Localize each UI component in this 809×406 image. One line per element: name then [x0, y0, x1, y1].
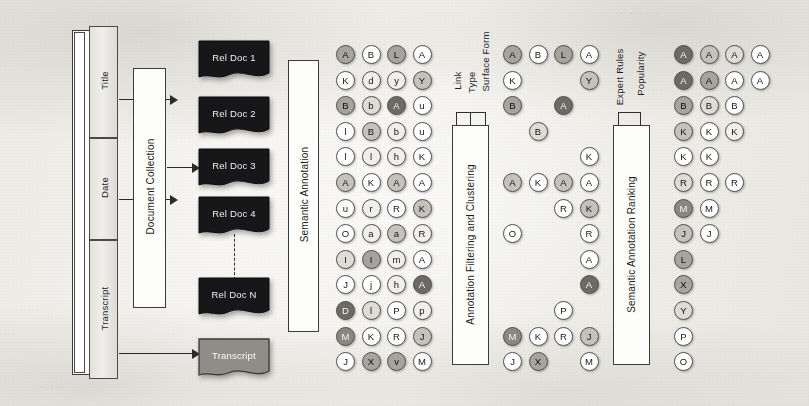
- annotation-token[interactable]: P: [554, 301, 573, 320]
- annotation-token[interactable]: A: [580, 250, 599, 269]
- annotation-token[interactable]: R: [387, 327, 406, 346]
- annotation-token[interactable]: B: [674, 96, 693, 115]
- transcript-document[interactable]: Transcript: [198, 338, 270, 380]
- annotation-token[interactable]: h: [387, 147, 406, 166]
- annotation-token[interactable]: A: [751, 71, 770, 90]
- annotation-token[interactable]: J: [336, 275, 355, 294]
- annotation-token[interactable]: l: [362, 301, 381, 320]
- annotation-token[interactable]: J: [503, 352, 522, 371]
- annotation-token[interactable]: J: [413, 327, 432, 346]
- annotation-token[interactable]: A: [751, 45, 770, 64]
- annotation-token[interactable]: A: [725, 45, 744, 64]
- list-item[interactable]: Rel Doc 4: [198, 196, 270, 238]
- annotation-token[interactable]: K: [700, 147, 719, 166]
- annotation-token[interactable]: B: [529, 122, 548, 141]
- annotation-token[interactable]: K: [503, 71, 522, 90]
- annotation-token[interactable]: A: [503, 173, 522, 192]
- annotation-token[interactable]: A: [336, 45, 355, 64]
- annotation-token[interactable]: P: [387, 301, 406, 320]
- annotation-token[interactable]: K: [362, 173, 381, 192]
- list-item[interactable]: Rel Doc 2: [198, 96, 270, 138]
- annotation-token[interactable]: R: [387, 199, 406, 218]
- annotation-token[interactable]: p: [413, 301, 432, 320]
- annotation-token[interactable]: Y: [674, 301, 693, 320]
- annotation-token[interactable]: Y: [580, 71, 599, 90]
- annotation-token[interactable]: K: [674, 122, 693, 141]
- annotation-token[interactable]: y: [387, 71, 406, 90]
- annotation-token[interactable]: K: [336, 71, 355, 90]
- annotation-token[interactable]: R: [554, 199, 573, 218]
- annotation-token[interactable]: M: [336, 327, 355, 346]
- annotation-token[interactable]: A: [674, 45, 693, 64]
- annotation-token[interactable]: J: [580, 327, 599, 346]
- annotation-token[interactable]: B: [700, 96, 719, 115]
- annotation-token[interactable]: K: [362, 327, 381, 346]
- annotation-token[interactable]: l: [336, 122, 355, 141]
- annotation-token[interactable]: a: [362, 224, 381, 243]
- annotation-token[interactable]: I: [336, 250, 355, 269]
- annotation-token[interactable]: K: [529, 173, 548, 192]
- annotation-token[interactable]: A: [674, 71, 693, 90]
- annotation-token[interactable]: A: [503, 45, 522, 64]
- annotation-token[interactable]: R: [700, 173, 719, 192]
- annotation-token[interactable]: P: [674, 327, 693, 346]
- annotation-token[interactable]: O: [503, 224, 522, 243]
- annotation-token[interactable]: M: [674, 199, 693, 218]
- annotation-token[interactable]: m: [387, 250, 406, 269]
- annotation-token[interactable]: M: [580, 352, 599, 371]
- annotation-token[interactable]: L: [387, 45, 406, 64]
- annotation-token[interactable]: A: [580, 45, 599, 64]
- annotation-token[interactable]: B: [529, 45, 548, 64]
- annotation-token[interactable]: A: [700, 71, 719, 90]
- annotation-token[interactable]: K: [580, 199, 599, 218]
- annotation-token[interactable]: X: [674, 275, 693, 294]
- annotation-token[interactable]: R: [413, 224, 432, 243]
- annotation-token[interactable]: r: [362, 199, 381, 218]
- annotation-token[interactable]: l: [336, 147, 355, 166]
- annotation-token[interactable]: M: [413, 352, 432, 371]
- annotation-token[interactable]: A: [413, 173, 432, 192]
- annotation-token[interactable]: B: [336, 96, 355, 115]
- annotation-token[interactable]: M: [700, 199, 719, 218]
- annotation-token[interactable]: u: [413, 96, 432, 115]
- annotation-token[interactable]: A: [413, 45, 432, 64]
- annotation-token[interactable]: I: [362, 250, 381, 269]
- annotation-token[interactable]: J: [700, 224, 719, 243]
- annotation-token[interactable]: u: [336, 199, 355, 218]
- annotation-token[interactable]: K: [700, 122, 719, 141]
- annotation-token[interactable]: K: [580, 147, 599, 166]
- annotation-token[interactable]: K: [674, 147, 693, 166]
- annotation-token[interactable]: a: [387, 224, 406, 243]
- annotation-token[interactable]: L: [674, 250, 693, 269]
- annotation-token[interactable]: B: [725, 96, 744, 115]
- annotation-token[interactable]: A: [725, 71, 744, 90]
- annotation-token[interactable]: K: [413, 147, 432, 166]
- annotation-token[interactable]: J: [336, 352, 355, 371]
- annotation-token[interactable]: L: [554, 45, 573, 64]
- annotation-token[interactable]: X: [362, 352, 381, 371]
- annotation-token[interactable]: B: [362, 45, 381, 64]
- annotation-token[interactable]: R: [725, 173, 744, 192]
- annotation-token[interactable]: X: [529, 352, 548, 371]
- annotation-token[interactable]: K: [413, 199, 432, 218]
- annotation-token[interactable]: A: [554, 173, 573, 192]
- annotation-token[interactable]: R: [580, 224, 599, 243]
- annotation-token[interactable]: R: [674, 173, 693, 192]
- annotation-token[interactable]: A: [387, 96, 406, 115]
- annotation-token[interactable]: A: [580, 173, 599, 192]
- annotation-token[interactable]: M: [503, 327, 522, 346]
- annotation-token[interactable]: u: [413, 122, 432, 141]
- annotation-token[interactable]: O: [674, 352, 693, 371]
- annotation-token[interactable]: B: [362, 122, 381, 141]
- annotation-token[interactable]: D: [336, 301, 355, 320]
- list-item[interactable]: Rel Doc 3: [198, 148, 270, 190]
- list-item[interactable]: Rel Doc 1: [198, 40, 270, 82]
- annotation-token[interactable]: A: [336, 173, 355, 192]
- annotation-token[interactable]: A: [387, 173, 406, 192]
- annotation-token[interactable]: b: [387, 122, 406, 141]
- annotation-token[interactable]: O: [336, 224, 355, 243]
- annotation-token[interactable]: K: [529, 327, 548, 346]
- list-item[interactable]: Rel Doc N: [198, 277, 270, 319]
- annotation-token[interactable]: A: [554, 96, 573, 115]
- annotation-token[interactable]: R: [554, 327, 573, 346]
